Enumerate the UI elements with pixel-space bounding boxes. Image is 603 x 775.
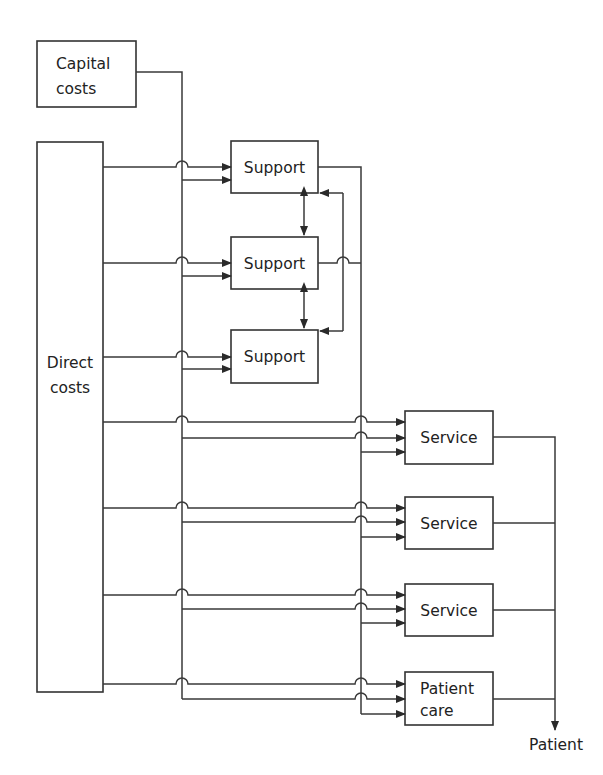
service-node-2: Service xyxy=(405,497,493,549)
support-connectors xyxy=(304,167,405,714)
patient-care-label-1: Patient xyxy=(420,680,474,698)
service-1-label: Service xyxy=(420,429,477,447)
patient-care-label-2: care xyxy=(420,702,454,720)
service-node-1: Service xyxy=(405,411,493,464)
service-2-label: Service xyxy=(420,515,477,533)
patient-care-node: Patient care xyxy=(405,672,493,725)
support-node-2: Support xyxy=(231,237,318,289)
support-node-1: Support xyxy=(231,141,318,193)
service-3-label: Service xyxy=(420,602,477,620)
support-3-label: Support xyxy=(244,348,305,366)
direct-costs-label-2: costs xyxy=(50,379,90,397)
support-node-3: Support xyxy=(231,330,318,383)
patient-connectors xyxy=(493,437,555,730)
direct-costs-label-1: Direct xyxy=(47,354,93,372)
service-node-3: Service xyxy=(405,584,493,636)
direct-costs-node: Direct costs xyxy=(37,142,103,692)
cost-flow-diagram: Capital costs Direct costs Support Suppo… xyxy=(0,0,603,775)
capital-costs-node: Capital costs xyxy=(37,41,136,107)
support-1-label: Support xyxy=(244,159,305,177)
support-2-label: Support xyxy=(244,255,305,273)
capital-costs-label-1: Capital xyxy=(56,55,110,73)
capital-costs-label-2: costs xyxy=(56,80,96,98)
patient-label: Patient xyxy=(529,736,583,754)
